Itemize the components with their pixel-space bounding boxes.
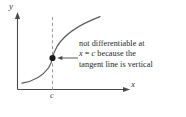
y-axis-label: y bbox=[9, 2, 13, 11]
annotation-line-2-rest: because the bbox=[95, 49, 136, 58]
x-tick-label-c: c bbox=[50, 92, 54, 100]
point-of-vertical-tangent bbox=[49, 55, 55, 61]
annotation-text-block: not differentiable at x = c because the … bbox=[79, 39, 183, 70]
x-axis-arrowhead bbox=[123, 87, 130, 92]
x-axis-label: x bbox=[131, 80, 135, 89]
annotation-leader-arrowhead bbox=[57, 56, 62, 60]
annotation-line-2: x = c because the bbox=[79, 49, 183, 59]
annotation-line-1: not differentiable at bbox=[79, 39, 183, 49]
annotation-line-3: tangent line is vertical bbox=[79, 60, 183, 70]
annotation-equals: = bbox=[83, 49, 92, 58]
y-axis-arrowhead bbox=[15, 12, 20, 19]
vertical-tangent-diagram: y x c not differentiable at x = c becaus… bbox=[0, 0, 186, 117]
